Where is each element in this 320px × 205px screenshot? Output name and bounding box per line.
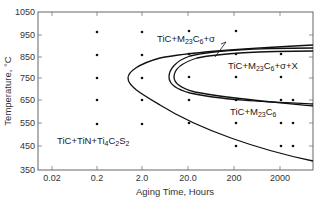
y-tick-label: 850: [20, 52, 35, 62]
region-label-tic-m23c6-sigma-x: TiC+M23C6+σ+X: [228, 60, 298, 72]
x-tick-labels: 0.02 0.2 2.0 20.0 200 2000: [43, 173, 290, 183]
x-tick-label: 200: [226, 173, 241, 183]
region-label-tic-m23c6: TiC+M23C6: [230, 106, 277, 118]
y-tick-label: 950: [20, 30, 35, 40]
y-tick-label: 1050: [15, 7, 35, 17]
region-label-tic-m23c6-sigma: TiC+M23C6+σ: [157, 33, 215, 45]
region-label-tic-tin-ti4c2s2: TiC+TiN+Ti4C2S2: [57, 135, 130, 147]
y-tick-label: 650: [20, 95, 35, 105]
y-axis-title: Temperature, °C: [2, 56, 13, 125]
y-tick-labels: 1050 950 850 750 650 550 450 350: [15, 7, 35, 175]
x-tick-label: 2.0: [136, 173, 149, 183]
sigma-curve: [169, 48, 313, 104]
x-tick-label: 0.02: [43, 173, 61, 183]
y-tick-label: 550: [20, 118, 35, 128]
x-axis-title: Aging Time, Hours: [136, 186, 214, 197]
x-tick-label: 20.0: [179, 173, 197, 183]
y-tick-label: 350: [20, 165, 35, 175]
x-tick-label: 2000: [270, 173, 290, 183]
y-tick-label: 450: [20, 141, 35, 151]
ttt-diagram-chart: 1050 950 850 750 650 550 450 350 0.02 0.…: [0, 0, 320, 205]
y-tick-label: 750: [20, 73, 35, 83]
x-tick-label: 0.2: [91, 173, 104, 183]
